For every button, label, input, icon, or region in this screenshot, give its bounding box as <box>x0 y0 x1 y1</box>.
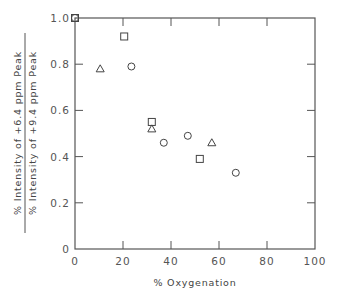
x-axis-ticks: 020406080100 <box>71 18 326 267</box>
y-axis-label-denominator: % Intensity of +9.4 ppm Peak <box>27 51 38 215</box>
x-axis-label: % Oxygenation <box>153 277 236 288</box>
y-tick-label: 0.6 <box>50 104 70 116</box>
circle-marker <box>128 63 135 70</box>
y-tick-label: 0.8 <box>50 58 70 70</box>
y-axis-label: % Intensity of +6.4 ppm Peak % Intensity… <box>12 33 38 233</box>
triangle-marker <box>208 139 216 146</box>
y-tick-label: 0.2 <box>50 197 70 209</box>
y-tick-label: 0.4 <box>50 151 70 163</box>
y-tick-label: 1.0 <box>50 12 70 24</box>
circle-marker <box>232 169 239 176</box>
y-axis-label-numerator: % Intensity of +6.4 ppm Peak <box>12 51 23 215</box>
data-markers <box>72 15 240 177</box>
square-marker <box>121 33 128 40</box>
plot-frame <box>75 18 315 249</box>
y-tick-label: 0 <box>62 243 70 255</box>
square-marker <box>196 155 203 162</box>
y-axis-ticks: 00.20.40.60.81.0 <box>50 12 315 255</box>
circle-marker <box>184 132 191 139</box>
triangle-marker <box>96 65 104 72</box>
x-tick-label: 0 <box>71 255 79 267</box>
plot-box <box>75 18 315 249</box>
x-tick-label: 40 <box>163 255 178 267</box>
x-tick-label: 60 <box>211 255 226 267</box>
circle-marker <box>160 139 167 146</box>
x-tick-label: 20 <box>115 255 130 267</box>
scatter-chart: 020406080100 00.20.40.60.81.0 % Oxygenat… <box>0 0 338 292</box>
x-tick-label: 100 <box>303 255 326 267</box>
x-tick-label: 80 <box>259 255 274 267</box>
